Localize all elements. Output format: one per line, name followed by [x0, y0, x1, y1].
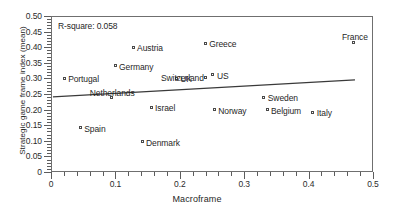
x-axis-tick	[373, 172, 374, 179]
x-axis-tick-label: 0	[31, 180, 71, 189]
y-axis-minor-tick	[47, 66, 51, 67]
y-axis-minor-tick	[47, 75, 51, 76]
data-point-marker	[204, 76, 207, 79]
y-axis-tick-label: 0.35	[2, 59, 42, 68]
y-axis-minor-tick	[47, 69, 51, 70]
y-axis-minor-tick	[47, 91, 51, 92]
y-axis-minor-tick	[47, 28, 51, 29]
y-axis-minor-tick	[47, 122, 51, 123]
y-axis-tick	[44, 156, 51, 157]
y-axis-minor-tick	[47, 97, 51, 98]
y-axis-minor-tick	[47, 19, 51, 20]
y-axis-minor-tick	[47, 82, 51, 83]
x-axis-minor-tick	[193, 172, 194, 176]
y-axis-minor-tick	[47, 72, 51, 73]
y-axis-tick-label: 0.20	[2, 106, 42, 115]
y-axis-minor-tick	[47, 144, 51, 145]
data-point-label: Denmark	[146, 139, 180, 148]
x-axis-minor-tick	[270, 172, 271, 176]
y-axis-tick	[44, 47, 51, 48]
y-axis-tick-label: 0.40	[2, 43, 42, 52]
y-axis-minor-tick	[47, 153, 51, 154]
x-axis-tick-label: 0.4	[289, 180, 329, 189]
data-point-label: France	[342, 33, 368, 42]
data-point-label: Greece	[209, 40, 236, 49]
data-point-label: Norway	[218, 107, 246, 116]
y-axis-minor-tick	[47, 138, 51, 139]
x-axis-minor-tick	[128, 172, 129, 176]
y-axis-minor-tick	[47, 106, 51, 107]
y-axis-tick-label: 0	[2, 168, 42, 177]
data-point-marker	[114, 64, 117, 67]
y-axis-tick-label: 0.30	[2, 74, 42, 83]
y-axis-tick-label: 0.15	[2, 121, 42, 130]
y-axis-minor-tick	[47, 166, 51, 167]
data-point-marker	[204, 42, 207, 45]
x-axis-tick-label: 0.2	[160, 180, 200, 189]
data-point-marker	[262, 96, 265, 99]
y-axis-minor-tick	[47, 116, 51, 117]
y-axis-minor-tick	[47, 41, 51, 42]
x-axis-tick-label: 0.5	[353, 180, 393, 189]
data-point-label: Italy	[317, 109, 332, 118]
y-axis-tick	[44, 16, 51, 17]
data-point-marker	[213, 108, 216, 111]
data-point-marker	[79, 126, 82, 129]
data-point-label: Germany	[119, 63, 153, 72]
x-axis-tick	[309, 172, 310, 179]
x-axis-tick-label: 0.1	[95, 180, 135, 189]
y-axis-minor-tick	[47, 22, 51, 23]
data-point-label: Switzerland	[161, 74, 204, 83]
y-axis-minor-tick	[47, 38, 51, 39]
y-axis-minor-tick	[47, 169, 51, 170]
y-axis-minor-tick	[47, 113, 51, 114]
y-axis-minor-tick	[47, 85, 51, 86]
data-point-label: Austria	[137, 44, 163, 53]
data-point-marker	[150, 106, 153, 109]
x-axis-minor-tick	[231, 172, 232, 176]
x-axis-minor-tick	[206, 172, 207, 176]
y-axis-minor-tick	[47, 88, 51, 89]
data-point-marker	[63, 77, 66, 80]
y-axis-minor-tick	[47, 135, 51, 136]
x-axis-minor-tick	[103, 172, 104, 176]
x-axis-minor-tick	[218, 172, 219, 176]
x-axis-minor-tick	[257, 172, 258, 176]
y-axis-minor-tick	[47, 103, 51, 104]
y-axis-tick-label: 0.05	[2, 152, 42, 161]
data-point-marker	[211, 73, 214, 76]
y-axis-minor-tick	[47, 60, 51, 61]
data-point-label: Israel	[155, 104, 175, 113]
data-point-label: Portugal	[68, 75, 99, 84]
y-axis-tick	[44, 172, 51, 173]
data-point-label: Belgium	[271, 107, 301, 116]
y-axis-minor-tick	[47, 44, 51, 45]
y-axis-minor-tick	[47, 53, 51, 54]
y-axis-minor-tick	[47, 128, 51, 129]
y-axis-minor-tick	[47, 131, 51, 132]
x-axis-minor-tick	[360, 172, 361, 176]
y-axis-minor-tick	[47, 119, 51, 120]
y-axis-minor-tick	[47, 160, 51, 161]
y-axis-tick-label: 0.10	[2, 137, 42, 146]
y-axis-tick	[44, 125, 51, 126]
y-axis-tick-label: 0.50	[2, 12, 42, 21]
data-point-label: Spain	[84, 125, 105, 134]
x-axis-minor-tick	[296, 172, 297, 176]
x-axis-minor-tick	[347, 172, 348, 176]
x-axis-tick	[51, 172, 52, 179]
data-point-marker	[132, 46, 135, 49]
x-axis-minor-tick	[64, 172, 65, 176]
x-axis-minor-tick	[283, 172, 284, 176]
y-axis-minor-tick	[47, 50, 51, 51]
data-point-marker	[141, 140, 144, 143]
y-axis-minor-tick	[47, 35, 51, 36]
y-axis-tick	[44, 63, 51, 64]
y-axis-minor-tick	[47, 25, 51, 26]
y-axis-minor-tick	[47, 150, 51, 151]
y-axis-tick	[44, 141, 51, 142]
y-axis-tick-label: 0.45	[2, 28, 42, 37]
x-axis-tick	[180, 172, 181, 179]
y-axis-minor-tick	[47, 147, 51, 148]
x-axis-minor-tick	[77, 172, 78, 176]
